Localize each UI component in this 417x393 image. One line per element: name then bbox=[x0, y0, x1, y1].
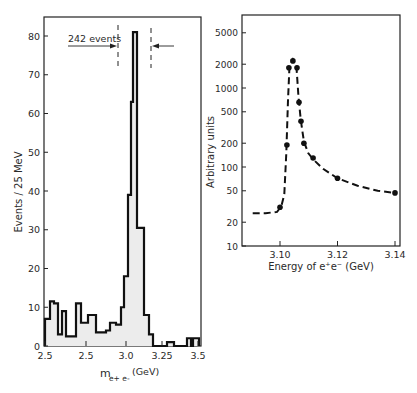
x-tick-label: 3.5 bbox=[190, 350, 205, 361]
data-point bbox=[335, 176, 341, 182]
left-x-axis-label: m e+ e- (GeV) bbox=[100, 366, 159, 383]
x-tick-label: 2.5 bbox=[37, 350, 52, 361]
x-tick-label: 3.12 bbox=[327, 249, 348, 260]
y-tick-label: 40 bbox=[28, 186, 40, 197]
y-tick-label: 200 bbox=[221, 139, 238, 149]
y-tick-label: 10 bbox=[227, 242, 239, 252]
y-tick-label: 2000 bbox=[215, 60, 238, 70]
data-point bbox=[296, 100, 302, 106]
y-tick-label: 50 bbox=[28, 147, 40, 158]
left-x-label-subscript: e+ e- bbox=[109, 374, 130, 383]
x-tick-label: 3.10 bbox=[269, 249, 290, 260]
y-tick-label: 10 bbox=[28, 302, 40, 313]
y-tick-label: 70 bbox=[28, 69, 40, 80]
data-point bbox=[392, 190, 398, 196]
dashed-fit-curve bbox=[253, 59, 395, 213]
events-annotation: 242 events bbox=[68, 25, 174, 70]
y-tick-label: 20 bbox=[28, 263, 40, 274]
data-point bbox=[298, 118, 304, 124]
x-tick-label: 3.14 bbox=[384, 249, 405, 260]
y-tick-label: 1000 bbox=[215, 84, 238, 94]
data-point bbox=[277, 204, 283, 210]
right-chart-resonance: 102050100200500100020005000 3.103.123.14… bbox=[205, 15, 406, 272]
y-tick-label: 20 bbox=[227, 218, 239, 228]
data-point bbox=[290, 58, 296, 64]
x-tick-label: 2.5 bbox=[78, 350, 93, 361]
figure: 01020304050607080 2.52.53.03.253.5 Event… bbox=[0, 0, 417, 393]
data-point bbox=[286, 65, 292, 71]
left-chart-frame bbox=[44, 17, 201, 346]
y-tick-label: 500 bbox=[221, 107, 238, 117]
data-point bbox=[294, 65, 300, 71]
left-chart-histogram: 01020304050607080 2.52.53.03.253.5 Event… bbox=[13, 17, 206, 383]
left-pointing-arrow-icon bbox=[152, 44, 159, 49]
x-tick-label: 3.0 bbox=[118, 350, 133, 361]
y-tick-label: 50 bbox=[227, 186, 239, 196]
left-x-label-unit: (GeV) bbox=[132, 366, 159, 377]
right-x-axis-ticks: 3.103.123.14 bbox=[269, 241, 405, 260]
data-point bbox=[301, 140, 307, 146]
histogram-outline bbox=[45, 32, 199, 346]
x-tick-label: 3.25 bbox=[151, 350, 172, 361]
y-tick-label: 30 bbox=[28, 224, 40, 235]
left-y-axis-label: Events / 25 MeV bbox=[13, 151, 24, 232]
right-x-axis-label: Energy of e⁺e⁻ (GeV) bbox=[268, 261, 374, 272]
right-y-axis-label: Arbitrary units bbox=[205, 116, 216, 188]
events-count-label: 242 events bbox=[68, 33, 121, 44]
right-pointing-arrow-icon bbox=[110, 44, 117, 49]
y-tick-label: 60 bbox=[28, 108, 40, 119]
histogram-fill bbox=[45, 32, 199, 346]
right-y-axis-ticks: 102050100200500100020005000 bbox=[215, 28, 246, 251]
data-point bbox=[284, 142, 290, 148]
y-tick-label: 100 bbox=[221, 163, 238, 173]
right-chart-frame bbox=[242, 15, 400, 246]
data-point bbox=[310, 155, 316, 161]
data-points bbox=[277, 58, 398, 210]
y-tick-label: 5000 bbox=[215, 28, 238, 38]
left-y-axis-ticks: 01020304050607080 bbox=[28, 31, 48, 352]
y-tick-label: 80 bbox=[28, 31, 40, 42]
